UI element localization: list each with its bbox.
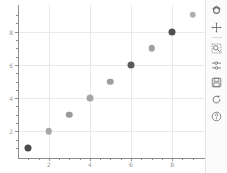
x-tick-minor bbox=[193, 158, 194, 160]
y-tick-minor bbox=[16, 73, 18, 74]
data-point bbox=[25, 145, 32, 152]
y-tick-major bbox=[15, 32, 18, 33]
x-tick-label: 4 bbox=[88, 161, 92, 168]
data-point bbox=[107, 78, 114, 85]
x-tick-minor bbox=[121, 158, 122, 160]
refresh-icon[interactable] bbox=[208, 91, 226, 107]
gridline-horizontal bbox=[18, 65, 205, 66]
x-tick-minor bbox=[141, 158, 142, 160]
navigation-toolbar[interactable] bbox=[205, 0, 227, 173]
y-tick-minor bbox=[16, 82, 18, 83]
zoom-rect-icon[interactable] bbox=[208, 40, 226, 56]
gridline-horizontal bbox=[18, 32, 205, 33]
y-tick-minor bbox=[16, 57, 18, 58]
home-icon[interactable] bbox=[208, 2, 226, 18]
plot-area[interactable] bbox=[18, 5, 205, 158]
data-point bbox=[46, 128, 53, 135]
y-tick-minor bbox=[16, 23, 18, 24]
gridline-vertical bbox=[131, 5, 132, 158]
gridline-vertical bbox=[90, 5, 91, 158]
x-tick-minor bbox=[80, 158, 81, 160]
x-tick-minor bbox=[39, 158, 40, 160]
y-tick-minor bbox=[16, 148, 18, 149]
x-tick-minor bbox=[182, 158, 183, 160]
x-tick-minor bbox=[162, 158, 163, 160]
data-point bbox=[169, 28, 176, 35]
x-tick-minor bbox=[152, 158, 153, 160]
y-tick-major bbox=[15, 98, 18, 99]
y-tick-minor bbox=[16, 15, 18, 16]
x-tick-minor bbox=[69, 158, 70, 160]
x-axis-spine bbox=[18, 158, 205, 159]
x-tick-label: 8 bbox=[170, 161, 174, 168]
x-tick-label: 2 bbox=[47, 161, 51, 168]
gridline-vertical bbox=[49, 5, 50, 158]
data-point bbox=[86, 95, 93, 102]
data-point bbox=[189, 12, 196, 19]
y-tick-label: 4 bbox=[4, 95, 13, 102]
x-tick-minor bbox=[28, 158, 29, 160]
x-tick-label: 6 bbox=[129, 161, 133, 168]
data-point bbox=[148, 45, 155, 52]
gridline-horizontal bbox=[18, 98, 205, 99]
y-tick-minor bbox=[16, 106, 18, 107]
y-tick-minor bbox=[16, 140, 18, 141]
y-tick-minor bbox=[16, 40, 18, 41]
data-point bbox=[128, 61, 135, 68]
save-icon[interactable] bbox=[208, 74, 226, 90]
x-tick-minor bbox=[110, 158, 111, 160]
move-icon[interactable] bbox=[208, 19, 226, 35]
y-tick-label: 6 bbox=[4, 61, 13, 68]
y-tick-minor bbox=[16, 48, 18, 49]
help-icon[interactable] bbox=[208, 108, 226, 124]
y-tick-minor bbox=[16, 123, 18, 124]
subplots-config-icon[interactable] bbox=[208, 57, 226, 73]
x-tick-minor bbox=[59, 158, 60, 160]
matplotlib-figure-canvas[interactable]: 24682468 bbox=[0, 0, 205, 173]
x-tick-minor bbox=[100, 158, 101, 160]
y-tick-minor bbox=[16, 90, 18, 91]
y-axis-spine bbox=[18, 5, 19, 158]
toolbar-separator bbox=[212, 37, 222, 38]
figure-window: 24682468 bbox=[0, 0, 227, 173]
y-tick-label: 8 bbox=[4, 28, 13, 35]
y-tick-minor bbox=[16, 115, 18, 116]
data-point bbox=[66, 112, 73, 119]
y-tick-major bbox=[15, 65, 18, 66]
y-tick-label: 2 bbox=[4, 128, 13, 135]
y-tick-major bbox=[15, 131, 18, 132]
